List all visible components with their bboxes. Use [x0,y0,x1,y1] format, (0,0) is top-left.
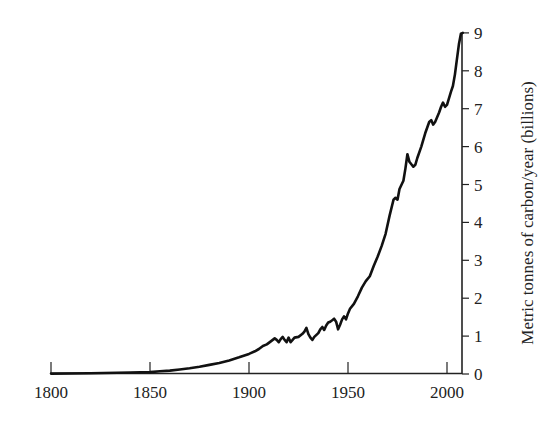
y-tick-label: 1 [474,327,483,346]
x-axis: 18001850190019502000 [34,362,464,402]
x-tick-label: 1800 [34,383,68,402]
emissions-line-chart: 18001850190019502000 0123456789 Metric t… [0,0,558,429]
y-tick-label: 9 [474,24,483,43]
y-tick-label: 6 [474,138,483,157]
y-tick-label: 8 [474,62,483,81]
y-axis: 0123456789 [462,24,483,384]
x-tick-label: 1900 [232,383,266,402]
y-tick-label: 5 [474,176,483,195]
emissions-series-line [51,33,463,374]
y-tick-label: 4 [474,213,483,232]
x-tick-label: 1850 [133,383,167,402]
y-axis-title: Metric tonnes of carbon/year (billions) [518,81,537,344]
y-tick-label: 3 [474,251,483,270]
x-tick-label: 1950 [331,383,365,402]
y-tick-label: 2 [474,289,483,308]
x-tick-label: 2000 [430,383,464,402]
y-tick-label: 7 [474,100,483,119]
y-tick-label: 0 [474,365,483,384]
